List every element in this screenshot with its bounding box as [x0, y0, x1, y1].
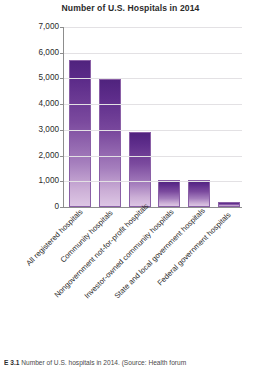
- gridline: [64, 156, 242, 157]
- y-axis-labels: 7,0006,0005,0004,0003,0002,0001,0000: [0, 27, 59, 208]
- gridline: [64, 181, 242, 182]
- y-axis-tick-label: 6,000: [39, 49, 60, 57]
- y-axis-tick: [60, 130, 63, 131]
- figure-caption: E 3.1 Number of U.S. hospitals in 2014. …: [4, 359, 261, 367]
- bar: [188, 180, 210, 207]
- bar: [99, 79, 121, 207]
- gridline: [64, 78, 242, 79]
- y-axis-tick: [60, 27, 63, 28]
- y-axis-tick-label: 5,000: [39, 74, 60, 82]
- bar-series: [64, 27, 242, 207]
- gridline: [64, 53, 242, 54]
- gridline: [64, 130, 242, 131]
- y-axis-tick-label: 1,000: [39, 177, 60, 185]
- bar: [218, 202, 240, 207]
- y-axis-tick: [60, 104, 63, 105]
- figure-caption-text: Number of U.S. hospitals in 2014. (Sourc…: [21, 359, 186, 366]
- chart-title: Number of U.S. Hospitals in 2014: [0, 3, 261, 13]
- figure-caption-number: E 3.1: [4, 359, 19, 366]
- y-axis-tick: [60, 156, 63, 157]
- bar: [69, 60, 91, 207]
- plot-area: [63, 27, 242, 207]
- gridline: [64, 104, 242, 105]
- gridline: [64, 27, 242, 28]
- y-axis-tick-label: 7,000: [39, 23, 60, 31]
- y-axis-tick-label: 3,000: [39, 126, 60, 134]
- y-axis-tick-label: 2,000: [39, 152, 60, 160]
- bar: [158, 180, 180, 207]
- x-axis-labels: All registered hospitalsCommunity hospit…: [0, 208, 261, 353]
- bar: [129, 132, 151, 207]
- y-axis-tick: [60, 78, 63, 79]
- y-axis-tick-label: 4,000: [39, 100, 60, 108]
- y-axis-tick: [60, 181, 63, 182]
- y-axis-tick: [60, 53, 63, 54]
